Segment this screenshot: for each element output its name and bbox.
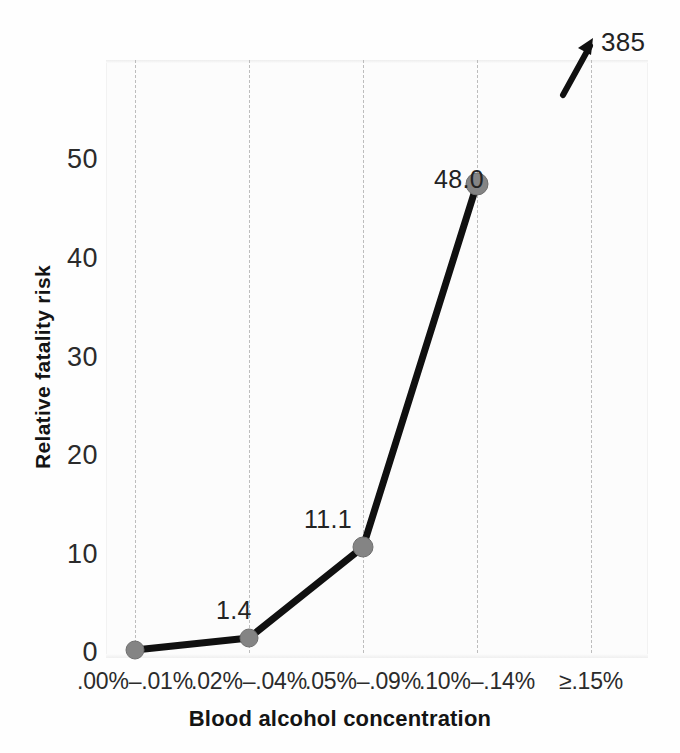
data-label-2: 11.1 [304, 505, 352, 534]
data-label-3: 48.0 [434, 165, 484, 194]
y-tick-label: 30 [12, 344, 98, 371]
y-tick-label: 20 [12, 442, 98, 469]
x-axis-title: Blood alcohol concentration [0, 706, 680, 732]
chart-figure: 50 40 30 20 10 0 Relative fatality risk … [0, 0, 680, 753]
gridline-0 [135, 60, 136, 658]
gridline-2 [363, 60, 364, 658]
gridline-1 [249, 60, 250, 658]
data-label-1: 1.4 [216, 596, 252, 625]
y-tick-label: 0 [12, 639, 98, 666]
gridline-4 [591, 60, 592, 658]
y-tick-label: 40 [12, 245, 98, 272]
gridline-3 [477, 60, 478, 658]
plot-area [106, 60, 648, 658]
data-label-offscale: 385 [601, 27, 645, 58]
y-tick-label: 50 [12, 146, 98, 173]
y-axis-title: Relative fatality risk [31, 227, 55, 507]
y-tick-label: 10 [12, 541, 98, 568]
y-axis: 50 40 30 20 10 0 Relative fatality risk [0, 0, 98, 753]
x-tick-label: ≥.15% [516, 668, 666, 695]
